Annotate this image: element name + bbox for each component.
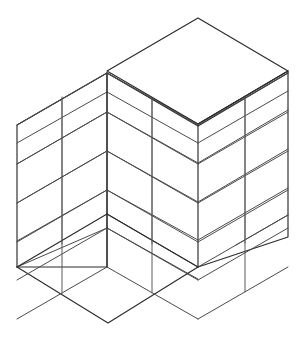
isometric-shelf-drawing: Isometric wireframe of an open shelving … bbox=[0, 0, 305, 340]
figure-container: Isometric wireframe of an open shelving … bbox=[0, 0, 305, 340]
derived-right-shelf-6 bbox=[198, 267, 288, 319]
